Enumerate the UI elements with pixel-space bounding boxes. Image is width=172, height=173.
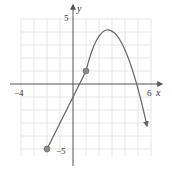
x-axis-label: x (155, 87, 161, 98)
x-min-tick-label: −4 (14, 88, 24, 98)
y-min-tick-label: −5 (56, 146, 66, 156)
piecewise-function-graph: −4 6 x 5 y −5 (0, 0, 172, 173)
y-axis-label: y (76, 3, 82, 14)
grid (21, 19, 151, 156)
endpoint-dot-junction (83, 68, 89, 74)
y-max-tick-label: 5 (64, 13, 69, 23)
x-max-tick-label: 6 (147, 88, 152, 98)
endpoint-dot-left (44, 146, 50, 152)
